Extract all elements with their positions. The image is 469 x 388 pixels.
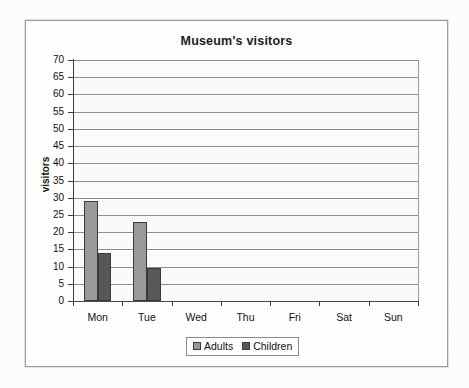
- y-tick-15: [68, 249, 73, 250]
- x-tick: [122, 301, 123, 306]
- x-axis-label-mon: Mon: [73, 311, 122, 323]
- y-tick-40: [68, 163, 73, 164]
- scanned-page: Museum's visitors visitors 0510152025303…: [0, 0, 469, 388]
- legend-swatch-children: [242, 342, 250, 350]
- y-tick-60: [68, 94, 73, 95]
- y-axis-label: 65: [34, 72, 64, 82]
- y-axis-label: 60: [34, 89, 64, 99]
- gridline-20: [73, 232, 418, 233]
- y-tick-55: [68, 112, 73, 113]
- chart-legend[interactable]: AdultsChildren: [186, 337, 299, 356]
- y-tick-5: [68, 284, 73, 285]
- y-tick-30: [68, 198, 73, 199]
- y-axis-label: 45: [34, 141, 64, 151]
- x-tick: [369, 301, 370, 306]
- gridline-40: [73, 163, 418, 164]
- y-tick-10: [68, 267, 73, 268]
- bar-adults-tue[interactable]: [133, 222, 147, 301]
- x-axis-label-sun: Sun: [369, 311, 418, 323]
- x-axis-label-wed: Wed: [172, 311, 221, 323]
- y-axis-label: 30: [34, 193, 64, 203]
- gridline-10: [73, 267, 418, 268]
- y-axis-label: 35: [34, 176, 64, 186]
- y-tick-45: [68, 146, 73, 147]
- legend-label-children: Children: [253, 340, 292, 352]
- plot-right-border: [418, 60, 419, 302]
- x-tick: [418, 301, 419, 306]
- gridline-55: [73, 112, 418, 113]
- x-axis-label-tue: Tue: [122, 311, 171, 323]
- y-axis-label: 70: [34, 55, 64, 65]
- y-axis-label: 20: [34, 227, 64, 237]
- x-tick: [73, 301, 74, 306]
- x-tick: [319, 301, 320, 306]
- y-tick-50: [68, 129, 73, 130]
- x-tick: [270, 301, 271, 306]
- x-axis-label-thu: Thu: [221, 311, 270, 323]
- gridline-25: [73, 215, 418, 216]
- legend-entry-adults[interactable]: Adults: [193, 340, 233, 352]
- gridline-15: [73, 249, 418, 250]
- y-axis-label: 15: [34, 244, 64, 254]
- legend-swatch-adults: [193, 342, 201, 350]
- y-axis-label: 40: [34, 158, 64, 168]
- value-axis-line: [73, 59, 74, 302]
- bar-children-tue[interactable]: [147, 268, 161, 301]
- gridline-50: [73, 129, 418, 130]
- y-tick-65: [68, 77, 73, 78]
- plot-area[interactable]: [73, 60, 418, 301]
- legend-entry-children[interactable]: Children: [242, 340, 292, 352]
- x-tick: [172, 301, 173, 306]
- y-axis-label: 0: [34, 296, 64, 306]
- chart-area[interactable]: Museum's visitors visitors 0510152025303…: [25, 20, 448, 367]
- y-tick-35: [68, 181, 73, 182]
- gridline-0: [73, 301, 418, 302]
- gridline-45: [73, 146, 418, 147]
- bar-children-mon[interactable]: [98, 253, 112, 301]
- x-axis-label-fri: Fri: [270, 311, 319, 323]
- gridline-30: [73, 198, 418, 199]
- gridline-5: [73, 284, 418, 285]
- gridline-70: [73, 60, 418, 61]
- y-tick-20: [68, 232, 73, 233]
- gridline-65: [73, 77, 418, 78]
- bar-adults-mon[interactable]: [84, 201, 98, 301]
- y-tick-25: [68, 215, 73, 216]
- legend-label-adults: Adults: [204, 340, 233, 352]
- gridline-35: [73, 181, 418, 182]
- y-axis-label: 25: [34, 210, 64, 220]
- gridline-60: [73, 94, 418, 95]
- chart-title: Museum's visitors: [26, 34, 447, 48]
- y-tick-70: [68, 60, 73, 61]
- x-axis-label-sat: Sat: [319, 311, 368, 323]
- y-axis-label: 5: [34, 279, 64, 289]
- x-tick: [221, 301, 222, 306]
- y-axis-label: 10: [34, 262, 64, 272]
- y-axis-label: 55: [34, 107, 64, 117]
- y-axis-label: 50: [34, 124, 64, 134]
